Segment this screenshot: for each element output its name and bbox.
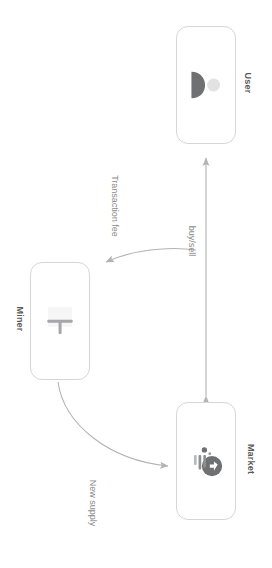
- edge-label-new-supply: New supply: [88, 465, 98, 541]
- edge-label-transaction-fee: Transaction fee: [110, 160, 120, 252]
- node-label-market: Market: [246, 436, 256, 482]
- node-user[interactable]: [176, 26, 236, 144]
- node-label-user: User: [243, 63, 253, 103]
- node-label-miner: Miner: [15, 299, 25, 339]
- person-icon: [187, 66, 225, 104]
- edge-label-buy-sell: buy/sell: [187, 210, 197, 272]
- diagram-canvas: User Miner Market Transaction fee buy/se…: [0, 0, 272, 568]
- pickaxe-icon: [41, 302, 79, 340]
- node-market[interactable]: [176, 402, 236, 520]
- globe-exchange-icon: [187, 442, 225, 480]
- edge-new-supply: [58, 382, 168, 466]
- node-miner[interactable]: [30, 262, 90, 380]
